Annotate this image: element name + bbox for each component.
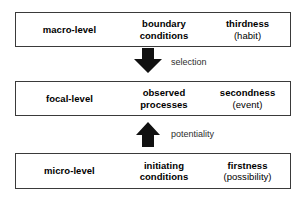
level-middle-line2-focal: processes bbox=[140, 99, 187, 110]
category-note-micro: (possibility) bbox=[205, 171, 290, 183]
category-note-macro: (habit) bbox=[205, 30, 290, 42]
level-label-micro: micro-level bbox=[16, 165, 123, 177]
level-middle-line1-micro: initiating bbox=[144, 160, 184, 171]
level-label-focal: focal-level bbox=[16, 93, 123, 105]
level-middle-line1-macro: boundary bbox=[142, 18, 186, 29]
arrow-group-selection: selection bbox=[0, 47, 306, 81]
arrow-group-potentiality: potentiality bbox=[0, 117, 306, 153]
category-note-focal: (event) bbox=[205, 99, 290, 111]
hierarchy-diagram: macro-level boundary conditions thirdnes… bbox=[0, 0, 306, 201]
category-name-macro: thirdness bbox=[205, 18, 290, 30]
level-middle-line1-focal: observed bbox=[143, 87, 186, 98]
level-box-micro: micro-level initiating conditions firstn… bbox=[15, 153, 291, 189]
arrow-label-selection: selection bbox=[171, 57, 207, 67]
level-box-macro: macro-level boundary conditions thirdnes… bbox=[15, 12, 291, 47]
arrow-label-potentiality: potentiality bbox=[171, 129, 214, 139]
level-middle-line2-micro: conditions bbox=[140, 171, 189, 182]
level-middle-focal: observed processes bbox=[123, 87, 205, 110]
level-middle-micro: initiating conditions bbox=[123, 160, 205, 183]
level-category-focal: secondness (event) bbox=[205, 87, 290, 110]
level-label-macro: macro-level bbox=[16, 24, 123, 36]
category-name-focal: secondness bbox=[205, 87, 290, 99]
level-category-macro: thirdness (habit) bbox=[205, 18, 290, 41]
level-category-micro: firstness (possibility) bbox=[205, 160, 290, 183]
level-middle-line2-macro: conditions bbox=[140, 30, 189, 41]
level-box-focal: focal-level observed processes secondnes… bbox=[15, 81, 291, 116]
category-name-micro: firstness bbox=[205, 160, 290, 172]
arrow-up-icon bbox=[131, 122, 165, 148]
arrow-down-icon bbox=[131, 48, 165, 74]
level-middle-macro: boundary conditions bbox=[123, 18, 205, 41]
